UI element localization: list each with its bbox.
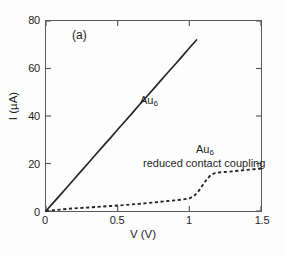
y-axis-title: I (µA): [7, 71, 19, 141]
series-sublabel-reduced-coupling: reduced contact coupling: [143, 157, 265, 169]
series-label-au6-text: Au: [140, 94, 153, 106]
x-tick-label-0-5: 0.5: [110, 214, 125, 226]
x-axis-title: V (V): [0, 228, 286, 240]
plot-area: [45, 20, 262, 212]
series-label-au6-subscript: 6: [153, 99, 157, 108]
series-label-au6-reduced-text: Au: [196, 143, 209, 155]
axis-ticks: [46, 21, 261, 211]
series-line-au6: [46, 40, 197, 211]
panel-label: (a): [72, 28, 87, 42]
plot-svg: [46, 21, 261, 211]
x-tick-label-0: 0: [42, 214, 48, 226]
series-label-au6-reduced: Au6: [196, 143, 214, 157]
y-tick-label-20: 20: [14, 158, 40, 170]
y-tick-label-80: 80: [14, 14, 40, 26]
x-tick-label-1: 1: [186, 214, 192, 226]
series-label-au6-reduced-subscript: 6: [209, 148, 213, 157]
series-label-au6: Au6: [140, 94, 158, 108]
x-tick-label-1-5: 1.5: [255, 214, 270, 226]
figure-panel-a: 80 60 40 20 0 0 0.5 1 1.5 V (V) I (µA) (…: [0, 0, 286, 256]
y-tick-label-0: 0: [14, 206, 40, 218]
